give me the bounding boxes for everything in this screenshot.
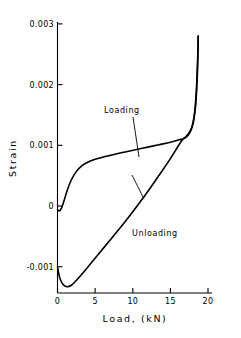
figure-container: -0.00100.0010.0020.003 05101520 Loading … bbox=[0, 0, 241, 338]
x-axis-tick-labels: 05101520 bbox=[55, 297, 214, 306]
x-axis-title: Load, (kN) bbox=[103, 313, 168, 324]
y-tick-label: -0.001 bbox=[26, 263, 54, 272]
y-axis-title: Strain bbox=[7, 139, 18, 177]
y-axis-ticks bbox=[58, 24, 63, 267]
strain-load-chart: -0.00100.0010.0020.003 05101520 Loading … bbox=[0, 0, 241, 338]
unloading-leader-line bbox=[132, 175, 144, 199]
y-tick-label: 0 bbox=[49, 202, 54, 211]
x-tick-label: 15 bbox=[165, 297, 176, 306]
x-tick-label: 10 bbox=[127, 297, 138, 306]
loading-leader-line bbox=[133, 117, 139, 157]
x-tick-label: 0 bbox=[55, 297, 60, 306]
curve-loading bbox=[58, 36, 199, 211]
unloading-annotation-label: Unloading bbox=[132, 229, 178, 238]
data-curves bbox=[58, 36, 199, 287]
loading-annotation-label: Loading bbox=[104, 106, 140, 115]
y-axis-tick-labels: -0.00100.0010.0020.003 bbox=[26, 20, 54, 272]
curve-unloading bbox=[58, 36, 199, 287]
y-tick-label: 0.003 bbox=[30, 20, 54, 29]
y-tick-label: 0.001 bbox=[30, 141, 54, 150]
x-tick-label: 20 bbox=[203, 297, 214, 306]
y-tick-label: 0.002 bbox=[30, 81, 54, 90]
x-tick-label: 5 bbox=[92, 297, 97, 306]
x-axis-ticks bbox=[58, 288, 209, 293]
